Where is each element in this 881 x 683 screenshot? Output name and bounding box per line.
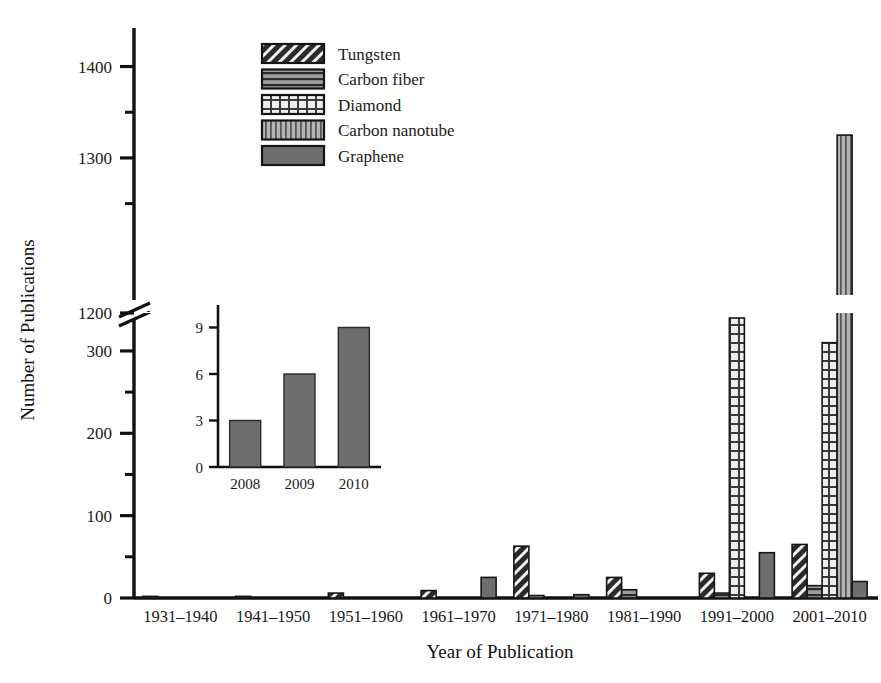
inset-y-tick-label: 0 xyxy=(196,460,204,476)
bar-diamond xyxy=(822,343,837,598)
inset-y-tick-label: 6 xyxy=(196,367,204,383)
inset-x-labels: 200820092010 xyxy=(230,476,369,492)
inset-y-tick-label: 3 xyxy=(196,413,204,429)
y-tick-label: 1300 xyxy=(78,149,112,168)
inset-x-label: 2009 xyxy=(285,476,315,492)
y-axis-title: Number of Publications xyxy=(17,239,38,421)
bars-upper-section xyxy=(837,135,852,309)
y-tick-label: 1200 xyxy=(78,304,112,323)
legend-swatch-carbon-nanotube xyxy=(262,121,324,140)
y-tick-label: 300 xyxy=(87,342,113,361)
x-category-label: 1931–1940 xyxy=(143,607,217,626)
bar-tungsten xyxy=(607,577,622,598)
x-category-label: 1981–1990 xyxy=(607,607,681,626)
bar-tungsten xyxy=(421,591,436,598)
y-tick-label: 100 xyxy=(87,507,113,526)
bar-carbon-nanotube-upper xyxy=(837,135,852,309)
y-tick-label: 200 xyxy=(87,424,113,443)
legend-label: Tungsten xyxy=(338,45,401,64)
x-category-label: 1961–1970 xyxy=(422,607,496,626)
legend-swatch-carbon-fiber xyxy=(262,70,324,89)
bar-graphene xyxy=(481,577,496,598)
bar-diamond xyxy=(729,318,744,598)
publications-bar-chart: 0100200300120013001400 Number of Publica… xyxy=(0,0,881,683)
legend-label: Carbon nanotube xyxy=(338,121,455,140)
x-category-label: 2001–2010 xyxy=(793,607,867,626)
bar-carbon-fiber xyxy=(529,596,544,598)
legend-swatch-tungsten xyxy=(262,44,324,63)
bar-tungsten xyxy=(143,596,158,598)
bar-tungsten xyxy=(699,573,714,598)
bar-carbon-fiber xyxy=(714,593,729,598)
inset-bar xyxy=(230,421,261,468)
inset-x-label: 2010 xyxy=(339,476,369,492)
y-tick-label: 0 xyxy=(104,589,113,608)
x-category-label: 1971–1980 xyxy=(514,607,588,626)
bar-tungsten xyxy=(792,544,807,598)
bar-tungsten xyxy=(514,546,529,598)
bar-tungsten xyxy=(328,593,343,598)
inset-bar xyxy=(284,374,315,467)
bar-carbon-nanotube xyxy=(837,304,852,598)
x-category-label: 1991–2000 xyxy=(700,607,774,626)
bar-graphene xyxy=(574,595,589,598)
legend-swatch-diamond xyxy=(262,95,324,114)
chart-canvas: 0100200300120013001400 Number of Publica… xyxy=(0,0,881,683)
legend-swatch-graphene xyxy=(262,146,324,165)
bar-graphene xyxy=(852,582,867,598)
x-axis-title: Year of Publication xyxy=(427,641,574,662)
legend-label: Carbon fiber xyxy=(338,70,425,89)
legend-label: Graphene xyxy=(338,147,404,166)
bar-tungsten xyxy=(236,596,251,598)
inset-x-label: 2008 xyxy=(230,476,260,492)
bar-carbon-fiber xyxy=(622,590,637,598)
chart-background xyxy=(0,0,881,683)
bar-graphene xyxy=(759,553,774,598)
x-category-label: 1941–1950 xyxy=(236,607,310,626)
x-category-label: 1951–1960 xyxy=(329,607,403,626)
y-tick-label: 1400 xyxy=(78,58,112,77)
legend-label: Diamond xyxy=(338,96,402,115)
inset-y-tick-label: 9 xyxy=(196,320,204,336)
bar-carbon-fiber xyxy=(807,586,822,598)
inset-bar xyxy=(338,328,369,468)
